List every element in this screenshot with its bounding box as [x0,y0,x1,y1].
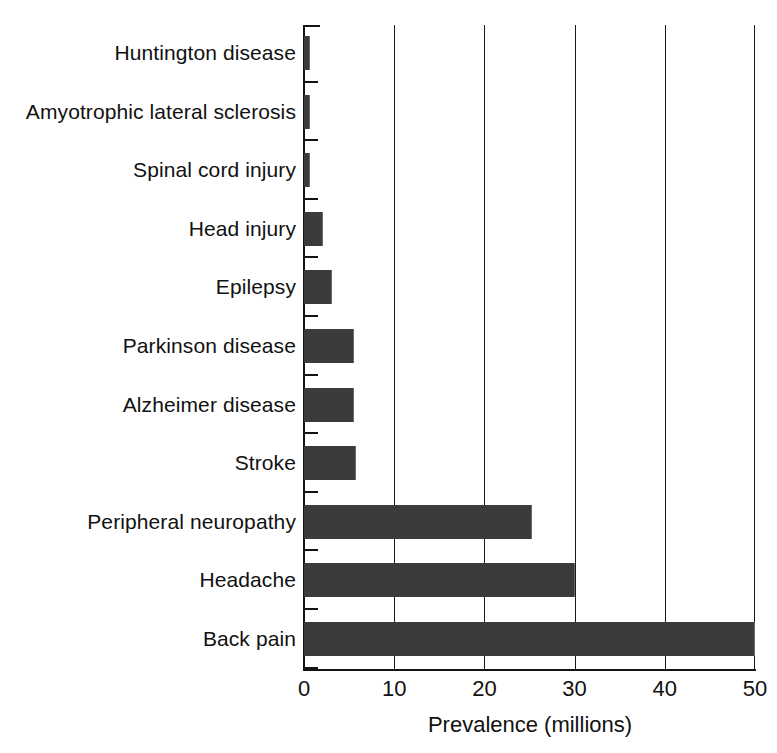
bar-row: Head injury [0,201,777,257]
bar-row: Back pain [0,611,777,667]
y-axis-tick [304,432,318,434]
bar-row: Spinal cord injury [0,142,777,198]
bar-chart: Huntington diseaseAmyotrophic lateral sc… [0,0,777,753]
y-axis-tick [304,491,318,493]
x-tick-label: 30 [545,676,605,702]
bar [304,388,354,422]
bar-row: Parkinson disease [0,318,777,374]
category-label: Stroke [235,435,296,491]
category-label: Head injury [189,201,296,257]
y-axis-tick [304,198,318,200]
bar [304,329,354,363]
bar-row: Headache [0,552,777,608]
bar [304,505,532,539]
x-tick-label: 50 [725,676,777,702]
category-label: Parkinson disease [123,318,296,374]
y-axis-tick [304,139,318,141]
bar [304,153,310,187]
x-tick-label: 40 [635,676,695,702]
bar-row: Stroke [0,435,777,491]
x-axis-title: Prevalence (millions) [304,712,756,738]
y-axis-tick [304,256,318,258]
bar [304,212,323,246]
category-label: Alzheimer disease [123,377,296,433]
y-axis-tick [304,667,318,669]
bar-row: Amyotrophic lateral sclerosis [0,84,777,140]
y-axis-tick [304,374,318,376]
bar [304,446,356,480]
category-label: Epilepsy [216,259,296,315]
y-axis-tick [304,608,318,610]
bar [304,36,310,70]
x-tick-label: 20 [454,676,514,702]
x-tick-label: 10 [364,676,424,702]
y-axis-tick [304,81,318,83]
bar-row: Epilepsy [0,259,777,315]
category-label: Headache [199,552,296,608]
bar [304,622,755,656]
category-label: Spinal cord injury [133,142,296,198]
bar [304,270,332,304]
y-axis-tick [304,315,318,317]
bar [304,563,575,597]
bar-row: Alzheimer disease [0,377,777,433]
x-axis-line [304,669,756,671]
x-tick-label: 0 [274,676,334,702]
bar-row: Peripheral neuropathy [0,494,777,550]
category-label: Huntington disease [114,25,296,81]
category-label: Back pain [203,611,296,667]
bar [304,95,310,129]
y-axis-tick [304,549,318,551]
bar-row: Huntington disease [0,25,777,81]
category-label: Amyotrophic lateral sclerosis [26,84,296,140]
category-label: Peripheral neuropathy [87,494,296,550]
